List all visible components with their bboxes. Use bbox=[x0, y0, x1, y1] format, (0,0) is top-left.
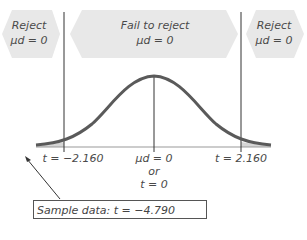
sample-data-box: Sample data: t = −4.790 bbox=[33, 200, 207, 219]
left-reject-title: Reject bbox=[6, 20, 52, 32]
center-or-label: or bbox=[124, 166, 184, 178]
left-reject-hypothesis: μd = 0 bbox=[6, 35, 52, 47]
fail-to-reject-hypothesis: μd = 0 bbox=[100, 35, 210, 47]
center-label: μd = 0 bbox=[124, 153, 184, 165]
left-critical-label: t = −2.160 bbox=[38, 153, 108, 165]
right-reject-title: Reject bbox=[250, 20, 298, 32]
right-critical-label: t = 2.160 bbox=[206, 153, 276, 165]
right-reject-hypothesis: μd = 0 bbox=[250, 35, 298, 47]
pointer-arrowhead bbox=[25, 156, 31, 162]
center-t-label: t = 0 bbox=[124, 179, 184, 191]
pointer-line bbox=[27, 159, 60, 199]
fail-to-reject-title: Fail to reject bbox=[100, 20, 210, 32]
